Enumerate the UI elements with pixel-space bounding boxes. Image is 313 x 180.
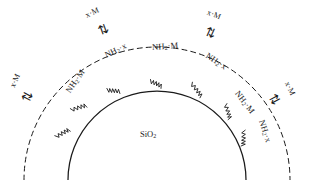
surface-site-label: NH2·M (152, 40, 179, 52)
tether-chain (225, 104, 232, 120)
core-label: SiO2 (140, 129, 156, 139)
tether-chain (151, 79, 162, 88)
tether-chain (241, 130, 245, 146)
tether-chain (55, 129, 70, 138)
tether-chain (107, 88, 120, 93)
tether-chain (192, 82, 202, 98)
silica-core-surface (68, 91, 246, 180)
tether-chain (70, 104, 87, 111)
diagram-vector-layer (0, 0, 313, 180)
diagram-canvas: NH2·M NH2·x NH2·M NH2·x NH2·M NH2·x x·M … (0, 0, 313, 180)
